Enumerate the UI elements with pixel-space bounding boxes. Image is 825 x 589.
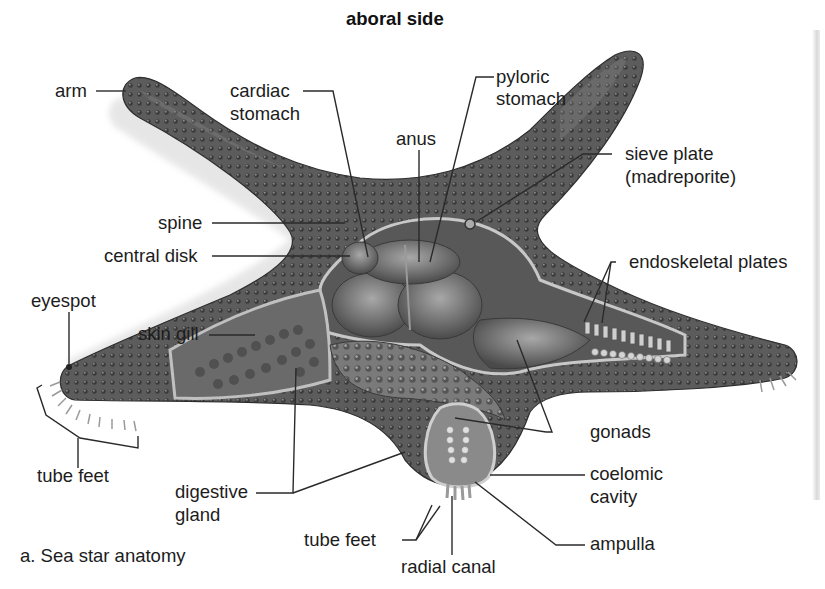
label-endoskeletal-plates: endoskeletal plates — [629, 251, 787, 273]
label-spine: spine — [158, 212, 202, 234]
label-cardiac-stomach-line2: stomach — [230, 103, 300, 125]
arm-cross-section — [425, 404, 494, 487]
label-gonads: gonads — [590, 421, 651, 443]
label-skin-gill: skin gill — [138, 323, 199, 345]
label-anus: anus — [396, 128, 436, 150]
label-coelomic-cavity-line2: cavity — [590, 486, 637, 508]
label-ampulla: ampulla — [590, 533, 655, 555]
label-pyloric-stomach-line2: stomach — [496, 88, 566, 110]
diagram-title: aboral side — [346, 8, 444, 30]
label-digestive-gland-line2: gland — [175, 504, 220, 526]
label-digestive-gland-line1: digestive — [175, 481, 248, 503]
diagram-caption: a. Sea star anatomy — [20, 545, 186, 567]
sea-star-diagram: aboral side arm cardiac stomach pyloric … — [0, 0, 825, 589]
label-tube-feet-bottom: tube feet — [304, 529, 376, 551]
label-arm: arm — [55, 80, 87, 102]
label-sieve-plate-line2: (madreporite) — [625, 166, 736, 188]
madreporite — [465, 219, 475, 229]
label-sieve-plate-line1: sieve plate — [625, 143, 713, 165]
label-pyloric-stomach-line1: pyloric — [496, 66, 549, 88]
eyespot-dot — [66, 364, 72, 370]
leader-ampulla — [475, 482, 585, 545]
page-edge-strip — [812, 30, 820, 500]
sea-star-illustration — [0, 0, 825, 589]
leader-digestive-2 — [293, 452, 405, 493]
label-tube-feet-left: tube feet — [37, 465, 109, 487]
label-eyespot: eyespot — [31, 290, 96, 312]
label-coelomic-cavity-line1: coelomic — [590, 463, 663, 485]
label-central-disk: central disk — [104, 245, 198, 267]
label-radial-canal: radial canal — [401, 556, 496, 578]
leader-tube-feet-bottom-2 — [416, 506, 440, 540]
label-cardiac-stomach-line1: cardiac — [230, 80, 290, 102]
